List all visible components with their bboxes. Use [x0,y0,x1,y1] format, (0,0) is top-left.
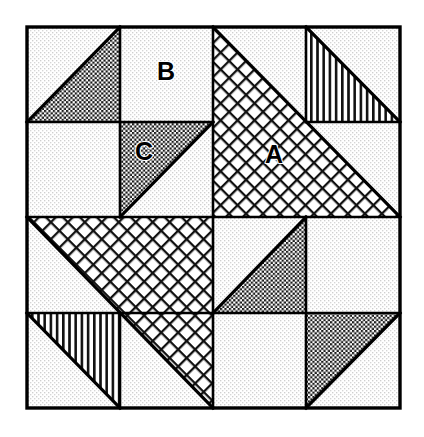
label-b: B [157,57,175,85]
label-a: A [265,140,283,168]
quilt-diagram-svg: A B C [0,0,424,437]
quilt-block-figure: A B C [0,0,424,437]
label-c: C [135,137,153,165]
